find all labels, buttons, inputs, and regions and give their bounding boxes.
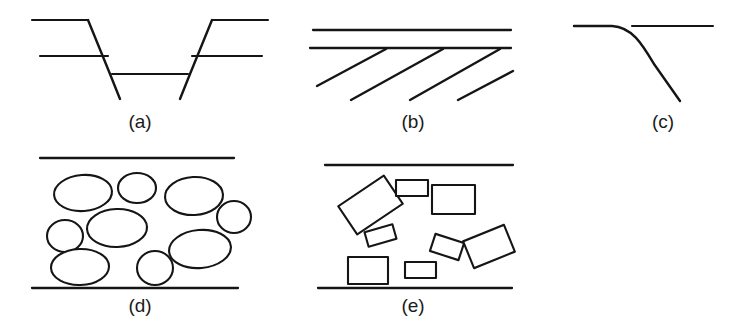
panel-e: (e)	[318, 165, 515, 316]
panel-caption-d: (d)	[128, 295, 151, 316]
ellipse-clast-9	[137, 251, 173, 285]
panel-caption-e: (e)	[401, 295, 424, 316]
rect-clast-3	[432, 185, 475, 214]
rect-clast-8	[405, 262, 436, 278]
ellipse-clast-7	[167, 227, 232, 270]
panel-caption-a: (a)	[128, 111, 151, 132]
ellipse-clast-1	[53, 173, 113, 213]
ellipse-clast-8	[50, 248, 109, 286]
shear-plane-2	[351, 49, 443, 100]
figure-canvas: (a) (b) (c)	[0, 0, 750, 324]
ellipse-clast-3	[164, 176, 224, 217]
shear-plane-1	[317, 49, 386, 86]
rect-clast-5	[430, 234, 464, 260]
ellipse-clast-5	[86, 208, 147, 248]
ellipse-clast-4	[217, 201, 251, 233]
panel-a: (a)	[32, 20, 268, 132]
ellipse-clast-2	[118, 173, 156, 203]
panel-d: (d)	[32, 158, 251, 316]
right-normal-fault	[180, 20, 212, 99]
rect-clast-2	[396, 180, 428, 196]
left-normal-fault	[88, 20, 120, 99]
panel-c: (c)	[574, 26, 713, 132]
panel-b: (b)	[310, 30, 513, 132]
rect-clast-4	[364, 224, 396, 246]
ellipse-clast-6	[47, 220, 83, 252]
rect-clast-7	[348, 257, 388, 284]
figure-root: (a) (b) (c)	[0, 0, 750, 324]
shear-plane-3	[410, 49, 500, 100]
rect-clast-6	[463, 225, 515, 268]
shear-plane-4	[458, 71, 513, 100]
panel-caption-b: (b)	[401, 111, 424, 132]
listric-fault-curve	[574, 26, 680, 101]
panel-caption-c: (c)	[652, 111, 674, 132]
